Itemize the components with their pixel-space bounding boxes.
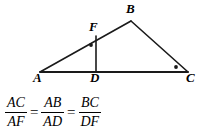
- equals-sign-1: =: [30, 105, 38, 120]
- fraction-3-numerator: BC: [79, 95, 101, 112]
- right-angle-dot-at-C-icon: [174, 65, 178, 69]
- vertex-label-B: B: [126, 2, 135, 15]
- fraction-2-denominator: AD: [41, 112, 64, 130]
- equals-sign-2: =: [67, 105, 75, 120]
- fraction-2-numerator: AB: [42, 95, 63, 112]
- vertex-label-D: D: [90, 71, 99, 84]
- triangle-outline: [40, 21, 188, 72]
- fraction-3-denominator: DF: [79, 112, 102, 130]
- fraction-term-2: AB AD: [41, 95, 64, 130]
- vertex-label-A: A: [33, 71, 42, 84]
- fraction-1-numerator: AC: [5, 95, 27, 112]
- fraction-1-denominator: AF: [5, 112, 26, 130]
- triangle-diagram: [0, 0, 205, 92]
- fraction-term-3: BC DF: [79, 95, 102, 130]
- proportion-equation: AC AF = AB AD = BC DF: [4, 92, 102, 132]
- geometry-figure: A B C D F AC AF = AB AD = BC DF: [0, 0, 205, 132]
- vertex-label-C: C: [186, 71, 195, 84]
- segment-BC: [131, 21, 188, 72]
- vertex-label-F: F: [89, 20, 98, 33]
- right-angle-dot-at-F-icon: [89, 43, 93, 47]
- segment-AB: [40, 21, 131, 72]
- fraction-term-1: AC AF: [5, 95, 27, 130]
